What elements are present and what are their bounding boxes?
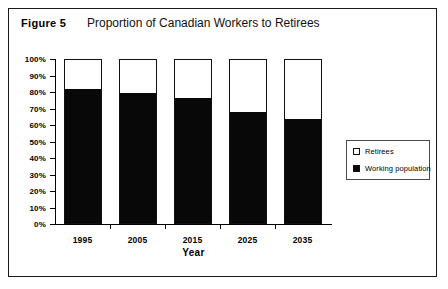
bar-group: 1995	[64, 59, 102, 224]
plot-area: 19952005201520252035	[55, 59, 330, 224]
x-axis-tick	[110, 224, 111, 229]
x-axis-tick	[165, 224, 166, 229]
figure-header: Figure 5 Proportion of Canadian Workers …	[9, 15, 436, 37]
y-axis-tick-label: 40%	[29, 154, 46, 163]
bar-stack-retirees	[119, 59, 157, 224]
bar-segment-working-population	[120, 93, 156, 223]
x-axis-tick-label: 1995	[64, 235, 102, 245]
y-axis-tick-label: 60%	[29, 121, 46, 130]
bar-stack-retirees	[64, 59, 102, 224]
y-axis-tick-label: 70%	[29, 104, 46, 113]
legend-label: Working population	[365, 164, 431, 173]
x-axis-line	[55, 224, 332, 225]
y-axis-tick	[50, 224, 55, 225]
bar-segment-working-population	[175, 98, 211, 223]
y-axis-tick-label: 30%	[29, 170, 46, 179]
figure-frame: Figure 5 Proportion of Canadian Workers …	[8, 8, 437, 277]
x-axis-tick-label: 2025	[229, 235, 267, 245]
bar-stack-retirees	[174, 59, 212, 224]
bar-stack-retirees	[284, 59, 322, 224]
bar-segment-working-population	[230, 112, 266, 223]
figure-number: Figure 5	[21, 17, 66, 29]
bar-group: 2025	[229, 59, 267, 224]
y-axis-tick-label: 80%	[29, 88, 46, 97]
figure-title: Proportion of Canadian Workers to Retire…	[87, 16, 320, 30]
bar-segment-working-population	[285, 119, 321, 223]
bar-segment-working-population	[65, 89, 101, 223]
bar-group: 2015	[174, 59, 212, 224]
legend-item: Working population	[353, 164, 424, 173]
legend-item: Retirees	[353, 147, 424, 156]
x-axis-tick	[220, 224, 221, 229]
y-axis-tick-label: 50%	[29, 137, 46, 146]
legend-swatch	[353, 165, 360, 172]
bar-stack-retirees	[229, 59, 267, 224]
x-axis-tick-label: 2005	[119, 235, 157, 245]
legend-swatch	[353, 148, 360, 155]
bar-group: 2035	[284, 59, 322, 224]
x-axis-tick-label: 2035	[284, 235, 322, 245]
x-axis-tick-label: 2015	[174, 235, 212, 245]
x-axis-tick	[275, 224, 276, 229]
x-axis-title: Year	[55, 247, 332, 258]
bar-group: 2005	[119, 59, 157, 224]
chart-legend: RetireesWorking population	[346, 140, 430, 180]
y-axis-tick-label: 10%	[29, 203, 46, 212]
y-axis-tick-label: 0%	[34, 220, 46, 229]
y-axis-tick-label: 20%	[29, 187, 46, 196]
y-axis-tick-label: 90%	[29, 71, 46, 80]
y-axis-tick-label: 100%	[25, 55, 46, 64]
legend-label: Retirees	[365, 147, 394, 156]
